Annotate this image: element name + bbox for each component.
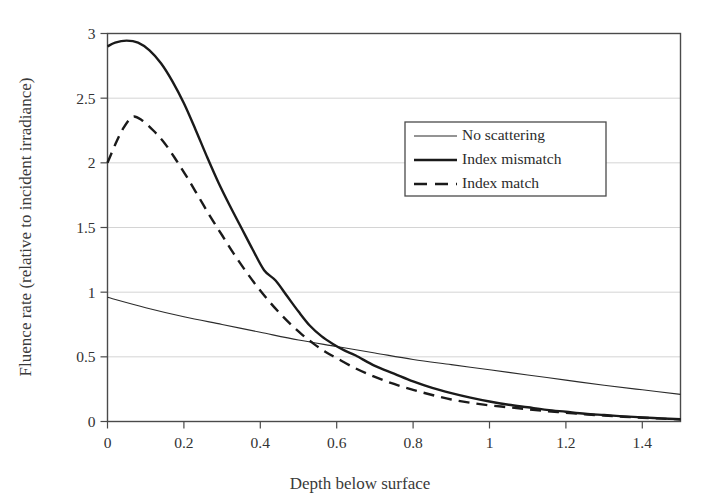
y-axis-title: Fluence rate (relative to incident irrad… <box>16 78 35 377</box>
legend-label-index-mismatch: Index mismatch <box>462 150 562 167</box>
x-tick-label: 1 <box>486 434 494 451</box>
y-tick-label: 3 <box>88 25 96 42</box>
x-tick-label: 0.2 <box>174 434 193 451</box>
chart-legend: No scatteringIndex mismatchIndex match <box>405 122 606 196</box>
x-axis-title: Depth below surface <box>290 474 431 493</box>
x-tick-label: 0 <box>104 434 112 451</box>
y-tick-label: 1.5 <box>76 219 96 236</box>
x-tick-label: 0.8 <box>403 434 423 451</box>
x-tick-label: 1.2 <box>556 434 575 451</box>
chart-figure: 00.20.40.60.811.21.4 00.511.522.53 No sc… <box>0 0 719 503</box>
y-tick-label: 0.5 <box>76 348 96 365</box>
x-tick-label: 0.4 <box>251 434 271 451</box>
y-tick-label: 2 <box>88 154 96 171</box>
y-tick-label: 0 <box>88 413 96 430</box>
y-tick-label: 1 <box>88 284 96 301</box>
x-tick-label: 1.4 <box>633 434 653 451</box>
legend-label-no-scattering: No scattering <box>462 126 545 143</box>
fluence-rate-line-chart: 00.20.40.60.811.21.4 00.511.522.53 No sc… <box>0 0 719 503</box>
y-tick-label: 2.5 <box>76 90 96 107</box>
x-tick-label: 0.6 <box>327 434 347 451</box>
legend-label-index-match: Index match <box>462 174 539 191</box>
